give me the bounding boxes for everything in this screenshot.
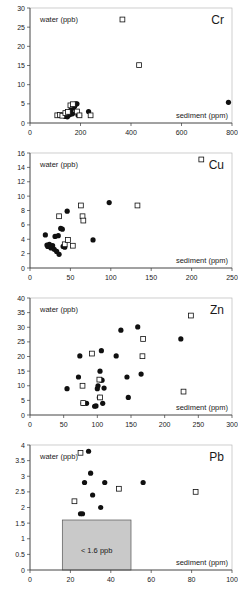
x-tick-label: 50 [67, 274, 75, 281]
open-square-marker [71, 102, 76, 107]
y-tick-label: 15 [17, 62, 25, 69]
x-tick-label: 0 [28, 129, 32, 136]
y-tick-label: 5 [21, 397, 25, 404]
filled-circle-marker [86, 449, 91, 454]
open-square-marker [66, 238, 71, 243]
x-tick-label: 0 [28, 421, 32, 428]
y-tick-label: 1 [21, 535, 25, 542]
open-square-marker [193, 489, 198, 494]
y-tick-label: 0 [21, 567, 25, 574]
threshold-annotation-label: < 1.6 ppb [81, 546, 113, 555]
y-axis-title: water (ppb) [39, 452, 78, 461]
filled-circle-marker [77, 353, 82, 358]
y-tick-label: 12 [17, 178, 25, 185]
open-square-marker [137, 63, 142, 68]
y-tick-label: 30 [17, 5, 25, 12]
x-tick-label: 40 [107, 576, 115, 583]
x-tick-label: 80 [188, 576, 196, 583]
panel-element-label: Pb [209, 450, 224, 464]
y-axis-title: water (ppb) [39, 160, 78, 169]
panel-element-label: Cr [211, 13, 224, 27]
x-tick-label: 300 [226, 421, 238, 428]
x-tick-label: 100 [105, 274, 117, 281]
open-square-marker [81, 218, 86, 223]
filled-circle-marker [139, 371, 144, 376]
open-square-marker [181, 389, 186, 394]
y-tick-label: 5 [21, 100, 25, 107]
open-square-marker [141, 337, 146, 342]
plot-frame [30, 298, 232, 415]
x-axis-title: sediment (ppm) [176, 111, 229, 120]
x-tick-label: 200 [159, 421, 171, 428]
y-tick-label: 6 [21, 221, 25, 228]
open-square-marker [81, 401, 86, 406]
filled-circle-marker [56, 252, 61, 257]
open-square-marker [77, 113, 82, 118]
x-tick-label: 0 [28, 576, 32, 583]
open-square-marker [90, 351, 95, 356]
panel-cr: 0510152025300200400600800water (ppb)sedi… [0, 0, 238, 145]
x-tick-label: 250 [192, 421, 204, 428]
y-tick-label: 30 [17, 324, 25, 331]
filled-circle-marker [97, 369, 102, 374]
open-square-marker [116, 486, 121, 491]
filled-circle-marker [88, 471, 93, 476]
x-tick-label: 400 [125, 129, 137, 136]
open-square-marker [72, 499, 77, 504]
y-tick-label: 25 [17, 24, 25, 31]
filled-circle-marker [101, 385, 106, 390]
filled-circle-marker [99, 348, 104, 353]
y-tick-label: 0 [21, 120, 25, 127]
filled-circle-marker [126, 395, 131, 400]
y-tick-label: 35 [17, 309, 25, 316]
x-axis-title: sediment (ppm) [176, 256, 229, 265]
x-tick-label: 150 [125, 421, 137, 428]
panel-zn: 0510152025303540050100150200250300water … [0, 290, 238, 437]
open-square-marker [140, 354, 145, 359]
x-tick-label: 200 [186, 274, 198, 281]
plot-frame [30, 8, 232, 123]
panel-pb: < 1.6 ppb00.511.522.533.54020406080100wa… [0, 437, 238, 592]
y-tick-label: 40 [17, 295, 25, 302]
y-tick-label: 2.5 [15, 488, 25, 495]
y-tick-label: 20 [17, 43, 25, 50]
x-tick-label: 0 [28, 274, 32, 281]
panel-cu: 0246810121416050100150200250water (ppb)s… [0, 145, 238, 290]
open-square-marker [98, 395, 103, 400]
x-axis-title: sediment (ppm) [176, 558, 229, 567]
filled-circle-marker [65, 209, 70, 214]
y-tick-label: 0 [21, 412, 25, 419]
y-tick-label: 10 [17, 81, 25, 88]
filled-circle-marker [64, 386, 69, 391]
y-axis-title: water (ppb) [39, 305, 78, 314]
x-tick-label: 600 [176, 129, 188, 136]
filled-circle-marker [114, 353, 119, 358]
open-square-marker [97, 377, 102, 382]
open-square-marker [70, 243, 75, 248]
y-tick-label: 15 [17, 368, 25, 375]
filled-circle-marker [102, 480, 107, 485]
filled-circle-marker [100, 401, 105, 406]
open-square-marker [120, 17, 125, 22]
open-square-marker [199, 157, 204, 162]
filled-circle-marker [43, 232, 48, 237]
x-axis-title: sediment (ppm) [176, 403, 229, 412]
panel-element-label: Zn [210, 303, 224, 317]
filled-circle-marker [90, 237, 95, 242]
x-tick-label: 800 [226, 129, 238, 136]
open-square-marker [57, 214, 62, 219]
panel-element-label: Cu [209, 158, 224, 172]
x-tick-label: 60 [147, 576, 155, 583]
filled-circle-marker [98, 505, 103, 510]
y-tick-label: 8 [21, 207, 25, 214]
y-tick-label: 25 [17, 338, 25, 345]
y-tick-label: 2 [21, 250, 25, 257]
x-tick-label: 100 [226, 576, 238, 583]
open-square-marker [65, 109, 70, 114]
y-tick-label: 0.5 [15, 551, 25, 558]
y-tick-label: 4 [21, 236, 25, 243]
y-tick-label: 2 [21, 504, 25, 511]
y-axis-title: water (ppb) [39, 15, 78, 24]
y-tick-label: 4 [21, 442, 25, 449]
open-square-marker [135, 203, 140, 208]
